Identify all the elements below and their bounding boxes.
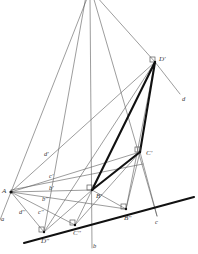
line-label-b-bottom: b (93, 243, 96, 250)
point-label-Cpp: C'' (73, 230, 81, 237)
point-label-Dp: D' (159, 56, 166, 63)
vertex-dot-Dp (154, 61, 156, 63)
vertex-dot-Dpp (43, 231, 45, 233)
apex-to-Dp (96, 0, 155, 62)
vertex-dot-Cpp (74, 224, 76, 226)
vertex-dot-Bp (91, 189, 93, 191)
line-label-c-prime: c' (49, 173, 53, 180)
line-label-c-right: c (155, 219, 158, 226)
point-label-Bpp: B'' (124, 215, 131, 222)
right-angle-markers (39, 57, 155, 232)
line-label-d-prime: d' (44, 151, 49, 158)
line-label-a-left: a (1, 216, 4, 223)
Bp-to-Cpp (75, 190, 92, 225)
point-label-Dpp: D'' (41, 238, 49, 245)
apex-to-Dpp (44, 0, 86, 232)
figure-canvas (0, 0, 198, 254)
vertex-dot-A (9, 190, 12, 193)
point-label-A: A (2, 188, 6, 195)
ground-line (24, 197, 194, 243)
Cp-to-Cright (140, 152, 157, 216)
point-label-Cp: C' (146, 150, 152, 157)
line-label-d-dprime: d'' (19, 209, 25, 216)
line-label-d-right: d (182, 96, 185, 103)
vertex-dot-Bpp (125, 208, 127, 210)
point-label-Bp: B' (96, 193, 102, 200)
line-label-b-prime: b' (49, 185, 54, 192)
vertex-dot-Cp (139, 151, 141, 153)
apex-vertical-b (90, 0, 92, 248)
apex-to-A (11, 0, 88, 192)
line-label-b-dprime: b'' (42, 196, 48, 203)
vertex-dots (9, 61, 156, 233)
Bp-horizontal (11, 164, 143, 190)
ground-line-a (24, 197, 194, 243)
Dp-to-d-label (155, 62, 180, 94)
geometry-figure: AB'C'D'B''C''D''dcbd'c'b'b''c''d''a (0, 0, 198, 254)
Bp-to-Cp (92, 152, 140, 190)
line-label-c-dprime: c'' (38, 209, 44, 216)
thin-projection-lines (0, 0, 180, 248)
